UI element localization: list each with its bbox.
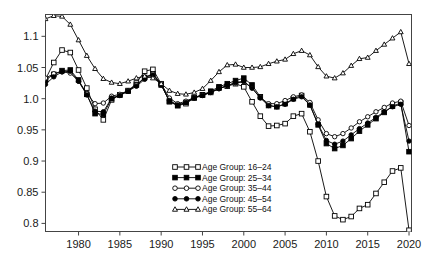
series-marker: [184, 100, 188, 104]
series-marker: [374, 110, 378, 114]
series-marker: [184, 92, 189, 96]
legend-label: Age Group: 25–34: [202, 173, 272, 183]
series-marker: [233, 62, 238, 66]
series-marker: [85, 86, 90, 91]
series-marker: [407, 61, 412, 65]
series-marker: [266, 61, 271, 65]
series-marker: [316, 159, 321, 164]
series-marker: [109, 80, 114, 84]
series-marker: [341, 131, 345, 135]
legend-item[interactable]: Age Group: 55–64: [172, 204, 271, 214]
series-marker: [274, 59, 279, 63]
series-marker: [266, 103, 270, 107]
series-marker: [126, 79, 131, 83]
series-marker: [357, 206, 362, 211]
series-marker: [390, 105, 394, 109]
y-axis: 0.80.850.90.951.01.051.1: [17, 30, 45, 229]
legend-marker: [184, 165, 189, 170]
series-marker: [109, 96, 113, 100]
series-marker: [167, 98, 171, 102]
series-marker: [225, 83, 229, 87]
series-marker: [258, 64, 263, 68]
series-marker: [175, 91, 180, 95]
series-marker: [357, 120, 361, 124]
legend-label: Age Group: 16–24: [202, 162, 272, 172]
series-marker: [93, 101, 97, 105]
series-marker: [60, 70, 64, 74]
x-tick-label: 2010: [314, 238, 338, 250]
series-marker: [43, 82, 47, 86]
legend-marker: [184, 175, 189, 180]
series-2: [43, 68, 411, 154]
series-marker: [332, 142, 336, 146]
series-marker: [68, 69, 72, 73]
series-marker: [341, 143, 346, 148]
series-marker: [308, 129, 313, 134]
series-marker: [382, 105, 386, 109]
series-marker: [283, 102, 287, 106]
x-tick-label: 1985: [108, 238, 132, 250]
legend-label: Age Group: 45–54: [202, 194, 272, 204]
series-marker: [398, 29, 403, 33]
series-marker: [117, 81, 122, 85]
series-marker: [283, 121, 288, 126]
series-marker: [283, 57, 288, 61]
series-marker: [126, 89, 130, 93]
series-marker: [366, 115, 370, 119]
series-marker: [349, 126, 353, 130]
series-marker: [258, 114, 263, 119]
legend-item[interactable]: Age Group: 45–54: [173, 194, 272, 204]
series-marker: [43, 76, 47, 80]
series-marker: [51, 13, 56, 17]
series-marker: [225, 62, 230, 66]
series-marker: [374, 191, 379, 196]
line-chart: 0.80.850.90.951.01.051.1 198019851990199…: [0, 0, 444, 259]
series-marker: [407, 149, 412, 154]
legend-item[interactable]: Age Group: 16–24: [173, 162, 272, 172]
series-marker: [250, 99, 255, 104]
series-marker: [382, 42, 387, 46]
series-marker: [192, 96, 196, 100]
legend-marker: [172, 207, 177, 211]
series-marker: [200, 93, 204, 97]
legend-marker: [184, 207, 189, 211]
series-marker: [365, 202, 370, 207]
chart-figure: 0.80.850.90.951.01.051.1 198019851990199…: [0, 0, 444, 259]
y-tick-label: 0.8: [23, 217, 38, 229]
x-tick-label: 2005: [273, 238, 297, 250]
x-axis: 198019851990199520002005201020152020: [66, 232, 421, 250]
legend-label: Age Group: 35–44: [202, 183, 272, 193]
series-marker: [349, 214, 354, 219]
chart-legend: Age Group: 16–24Age Group: 25–34Age Grou…: [172, 162, 271, 214]
series-marker: [250, 65, 255, 69]
x-tick-label: 1995: [190, 238, 214, 250]
series-marker: [275, 105, 279, 109]
series-marker: [299, 48, 304, 52]
series-marker: [76, 38, 81, 42]
legend-item[interactable]: Age Group: 25–34: [173, 173, 272, 183]
legend-item[interactable]: Age Group: 35–44: [173, 183, 272, 193]
legend-label: Age Group: 55–64: [202, 204, 272, 214]
legend-marker: [195, 207, 200, 211]
series-marker: [101, 110, 105, 114]
series-marker: [366, 121, 370, 125]
series-3: [43, 70, 411, 139]
series-marker: [341, 217, 346, 222]
y-tick-label: 0.95: [17, 124, 38, 136]
y-tick-label: 0.9: [23, 155, 38, 167]
legend-marker: [173, 165, 178, 170]
series-marker: [266, 124, 271, 129]
y-tick-label: 0.85: [17, 186, 38, 198]
series-marker: [382, 110, 386, 114]
series-marker: [84, 53, 89, 57]
series-marker: [118, 93, 122, 97]
series-marker: [316, 122, 320, 126]
series-marker: [399, 102, 403, 106]
series-marker: [175, 103, 179, 107]
series-marker: [357, 56, 362, 60]
y-tick-label: 1.1: [23, 30, 38, 42]
series-marker: [93, 109, 97, 113]
legend-marker: [196, 197, 201, 202]
series-marker: [324, 194, 329, 199]
series-marker: [241, 65, 246, 69]
